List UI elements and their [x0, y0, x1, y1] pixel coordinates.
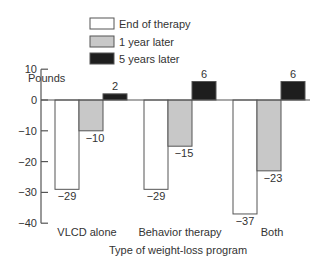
bar — [144, 100, 168, 189]
y-tick-label: −30 — [18, 186, 37, 198]
bar — [281, 82, 305, 100]
bar — [55, 100, 79, 189]
bar — [79, 100, 103, 131]
bar — [233, 100, 257, 214]
bar-value-label: 6 — [201, 68, 207, 80]
bar-value-label: 6 — [290, 68, 296, 80]
legend-swatch — [90, 53, 114, 64]
bar — [192, 82, 216, 100]
legend: End of therapy1 year later5 years later — [90, 18, 191, 65]
x-category-label: VLCD alone — [57, 226, 116, 238]
x-category-label: Both — [261, 226, 284, 238]
legend-label: End of therapy — [119, 18, 191, 30]
bar-chart: End of therapy1 year later5 years later … — [0, 0, 324, 264]
y-tick-label: −40 — [18, 217, 37, 229]
y-tick-label: −20 — [18, 156, 37, 168]
legend-label: 5 years later — [119, 53, 180, 65]
bar-value-label: −29 — [147, 190, 166, 202]
bars: −29−102−29−156−37−236 — [55, 68, 305, 227]
x-category-label: Behavior therapy — [138, 226, 222, 238]
y-tick-label: 10 — [25, 63, 37, 75]
x-axis-label: Type of weight-loss program — [109, 244, 247, 256]
bar-value-label: −10 — [86, 132, 105, 144]
bar-value-label: −23 — [264, 172, 283, 184]
bar-value-label: −15 — [175, 147, 194, 159]
bar — [257, 100, 281, 171]
bar-value-label: −29 — [58, 190, 77, 202]
legend-swatch — [90, 18, 114, 29]
legend-swatch — [90, 36, 114, 47]
bar — [168, 100, 192, 146]
bar-value-label: 2 — [112, 80, 118, 92]
bar-value-label: −37 — [236, 215, 255, 227]
y-tick-label: 0 — [31, 94, 37, 106]
bar — [103, 94, 127, 100]
legend-label: 1 year later — [119, 36, 174, 48]
y-tick-label: −10 — [18, 125, 37, 137]
x-axis-categories: VLCD aloneBehavior therapyBoth — [57, 226, 283, 238]
